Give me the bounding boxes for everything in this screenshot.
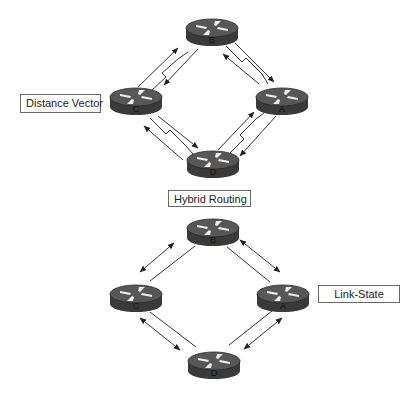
svg-text:A: A	[280, 301, 286, 311]
router-d-top: D	[187, 151, 239, 178]
link-c-d-top	[144, 116, 198, 160]
distance-vector-label: Distance Vector	[20, 94, 101, 113]
svg-text:A: A	[279, 104, 285, 114]
svg-text:B: B	[209, 35, 215, 45]
link-b-a-top	[223, 43, 274, 84]
svg-text:C: C	[133, 301, 140, 311]
link-c-d-bottom	[140, 312, 196, 350]
svg-text:B: B	[210, 235, 216, 245]
link-state-label: Link-State	[318, 285, 400, 303]
bottom-network: B C A D	[110, 219, 309, 379]
router-b-bottom: B	[187, 219, 239, 246]
router-a-bottom: A	[257, 285, 309, 312]
link-b-a-bottom	[227, 240, 280, 282]
svg-text:D: D	[211, 368, 218, 378]
hybrid-routing-label: Hybrid Routing	[168, 190, 251, 207]
top-network: B C A D	[110, 19, 308, 178]
router-a-top: A	[256, 88, 308, 115]
link-c-b-bottom	[140, 243, 195, 281]
router-c-top: C	[110, 88, 162, 115]
router-c-bottom: C	[110, 285, 162, 312]
link-d-a-top	[218, 110, 276, 156]
svg-text:D: D	[210, 167, 217, 177]
link-d-a-bottom	[229, 311, 282, 349]
router-b-top: B	[186, 19, 238, 46]
router-d-bottom: D	[188, 352, 240, 379]
link-c-b-top	[138, 48, 198, 92]
svg-text:C: C	[133, 104, 140, 114]
